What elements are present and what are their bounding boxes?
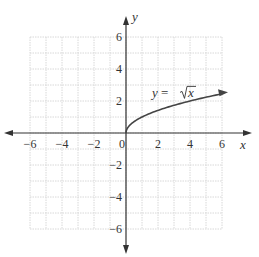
y-axis-up-arrow-icon [123, 16, 129, 25]
x-tick-label: 6 [219, 137, 225, 151]
axes [4, 16, 252, 254]
graph-canvas: −6−4−20246−6−4−2246 yxy = x [0, 0, 259, 257]
equation-label: y = [150, 85, 168, 100]
equation-radicand: x [187, 85, 194, 100]
axis-labels: yxy = x [130, 9, 246, 152]
x-tick-label: −2 [88, 137, 101, 151]
sqrt-curve [126, 89, 228, 133]
x-axis-left-arrow-icon [4, 130, 13, 136]
x-tick-label: 2 [155, 137, 161, 151]
x-tick-label: 0 [119, 137, 125, 151]
y-tick-label: −2 [109, 158, 122, 172]
y-tick-label: 2 [116, 94, 122, 108]
x-tick-label: −4 [56, 137, 69, 151]
curve-arrow-icon [218, 89, 228, 96]
x-axis-label: x [239, 137, 246, 152]
x-tick-label: 4 [187, 137, 193, 151]
y-tick-label: −4 [109, 190, 122, 204]
x-tick-label: −6 [24, 137, 37, 151]
y-axis-down-arrow-icon [123, 245, 129, 254]
y-tick-label: −6 [109, 222, 122, 236]
y-tick-label: 4 [116, 62, 122, 76]
y-axis-label: y [130, 9, 138, 24]
y-tick-label: 6 [116, 30, 122, 44]
x-axis-right-arrow-icon [243, 130, 252, 136]
